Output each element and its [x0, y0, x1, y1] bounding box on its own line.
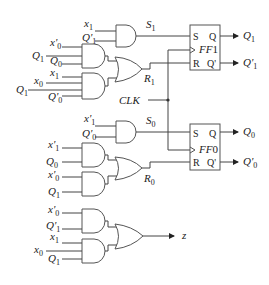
input-x1-label: x1: [83, 17, 93, 32]
svg-text:Q': Q': [207, 157, 216, 168]
input-x0-z-label: x0: [33, 243, 43, 258]
input-q1-z-label: Q1: [48, 252, 60, 267]
or-gate-r0: [115, 157, 190, 180]
signal-r0-label: R0: [143, 172, 155, 187]
output-q0n-label: Q'0: [243, 155, 257, 170]
input-x0n-z-label: x'0: [47, 203, 59, 218]
output-q0-label: Q0: [243, 125, 255, 140]
input-q1-r0-label: Q1: [48, 185, 60, 200]
input-q0n-label: Q'0: [48, 90, 62, 105]
and-gate-s0: [95, 121, 190, 143]
output-q1-label: Q1: [243, 29, 255, 44]
output-q1n-label: Q'1: [243, 56, 257, 71]
output-z-label: z: [181, 229, 187, 241]
svg-text:Q: Q: [209, 128, 217, 139]
input-q0n-s0-label: Q'0: [82, 127, 96, 142]
signal-r1-label: R1: [143, 72, 155, 87]
input-q1-b-label: Q1: [16, 83, 28, 98]
signal-s1-label: S1: [146, 18, 156, 33]
and-gate-r0b: [62, 172, 117, 196]
svg-text:Q': Q': [207, 58, 216, 69]
and-gate-r0a: [62, 143, 117, 167]
svg-text:S: S: [193, 128, 199, 139]
input-q1-label: Q1: [32, 49, 44, 64]
or-gate-z: [115, 224, 174, 249]
svg-text:R: R: [193, 157, 200, 168]
signal-s0-label: S0: [146, 114, 156, 129]
input-x1n-label: x'1: [83, 112, 95, 127]
input-x0n-r0-label: x'0: [47, 168, 59, 183]
ff1-name: FF1: [198, 43, 218, 55]
svg-text:S: S: [193, 31, 199, 42]
clock-line: [148, 50, 190, 150]
ff0-name: FF0: [198, 143, 218, 155]
flipflop-ff1: S Q FF1 R Q': [190, 25, 238, 70]
and-gate-za: [62, 209, 117, 233]
input-x0-label: x0: [33, 74, 43, 89]
sequential-circuit-diagram: x1 Q'1 S1 x'0 Q1 Q0 x1 x0 Q1 Q'0 R1 S Q …: [0, 0, 269, 285]
clock-label: CLK: [119, 94, 140, 106]
svg-text:R: R: [193, 58, 200, 69]
svg-text:Q: Q: [209, 31, 217, 42]
and-gate-s1: [95, 25, 190, 47]
input-x0n-label: x'0: [49, 36, 61, 51]
input-x1n-r0-label: x'1: [47, 138, 59, 153]
flipflop-ff0: S Q FF0 R Q': [190, 124, 238, 170]
